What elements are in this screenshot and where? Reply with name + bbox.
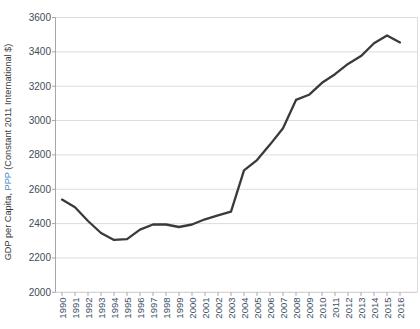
x-tick-label: 2000	[187, 298, 198, 319]
x-tick-label: 2001	[200, 298, 211, 319]
x-tick-label: 2002	[213, 298, 224, 319]
x-tick-label: 2012	[343, 298, 354, 319]
x-tick-label: 2005	[252, 298, 263, 319]
x-tick-label: 2016	[395, 298, 406, 319]
y-tick-label: 2200	[29, 252, 52, 263]
x-tick-label: 2015	[382, 298, 393, 319]
x-tick-label: 2010	[317, 298, 328, 319]
gdp-per-capita-line-chart: 2000220024002600280030003200340036001990…	[0, 0, 420, 329]
x-tick-label: 2006	[265, 298, 276, 319]
y-tick-label: 2000	[29, 287, 52, 298]
y-tick-label: 3200	[29, 81, 52, 92]
x-tick-label: 1992	[83, 298, 94, 319]
y-axis-title: GDP per Capita, PPP (Constant 2011 Inter…	[3, 44, 13, 261]
x-tick-label: 2011	[330, 298, 341, 318]
x-tick-label: 2004	[239, 298, 250, 319]
x-tick-label: 1990	[57, 298, 68, 319]
x-tick-label: 1995	[122, 298, 133, 319]
y-tick-label: 3600	[29, 12, 52, 23]
y-axis-title-segment: GDP per Capita,	[3, 190, 13, 260]
x-tick-label: 2007	[278, 298, 289, 319]
x-tick-label: 1994	[109, 298, 120, 319]
x-tick-label: 2014	[369, 298, 380, 319]
y-tick-label: 3400	[29, 46, 52, 57]
x-tick-label: 1997	[148, 298, 159, 319]
y-tick-label: 2800	[29, 149, 52, 160]
gdp-data-line	[62, 36, 400, 240]
x-tick-label: 1991	[70, 298, 81, 319]
x-tick-label: 2003	[226, 298, 237, 319]
x-tick-label: 1999	[174, 298, 185, 319]
x-tick-label: 1998	[161, 298, 172, 319]
y-axis-title-segment: PPP	[3, 172, 13, 190]
y-axis-title-segment: (Constant 2011 International $)	[3, 44, 13, 173]
y-tick-label: 2400	[29, 218, 52, 229]
x-tick-label: 2008	[291, 298, 302, 319]
x-tick-label: 2013	[356, 298, 367, 319]
chart-container: 2000220024002600280030003200340036001990…	[0, 0, 420, 329]
y-tick-label: 2600	[29, 184, 52, 195]
x-tick-label: 1993	[96, 298, 107, 319]
x-tick-label: 2009	[304, 298, 315, 319]
y-tick-label: 3000	[29, 115, 52, 126]
x-tick-label: 1996	[135, 298, 146, 319]
